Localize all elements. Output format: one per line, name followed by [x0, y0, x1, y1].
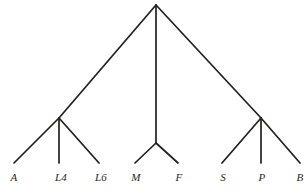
taxon-label-l6: L6 — [95, 172, 107, 183]
taxon-label-p: P — [259, 172, 266, 183]
taxon-label-m: M — [131, 172, 140, 183]
root-to-clade-left — [59, 5, 156, 118]
taxon-label-a: A — [11, 172, 18, 183]
taxon-label-b: B — [297, 172, 304, 183]
branch-group — [14, 5, 300, 163]
taxon-label-s: S — [220, 172, 226, 183]
root-to-clade-right — [156, 5, 261, 118]
clade-right-to-B — [261, 118, 300, 163]
clade-right-to-S — [222, 118, 261, 163]
clade-middle-to-F — [156, 143, 178, 163]
clade-middle-to-M — [135, 143, 156, 163]
cladogram-figure: AL4L6MFSPB — [0, 0, 308, 192]
taxon-label-l4: L4 — [55, 172, 67, 183]
taxon-label-f: F — [176, 172, 183, 183]
clade-left-to-L6 — [59, 118, 99, 163]
clade-left-to-A — [14, 118, 59, 163]
tree-branches — [0, 0, 308, 192]
